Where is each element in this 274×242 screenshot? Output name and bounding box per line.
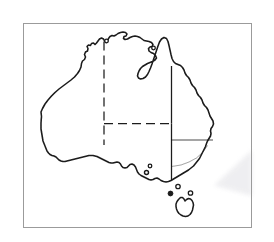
marker-tasmania-north	[188, 191, 192, 195]
marker-adelaide	[145, 171, 149, 175]
marker-cape-york	[152, 46, 156, 50]
marker-melbourne	[176, 184, 180, 188]
marker-bass-strait-west	[168, 191, 173, 196]
marker-darwin	[105, 39, 109, 43]
australia-map-svg	[0, 0, 274, 242]
marker-spencer-gulf	[148, 164, 152, 168]
map-figure	[0, 0, 274, 242]
